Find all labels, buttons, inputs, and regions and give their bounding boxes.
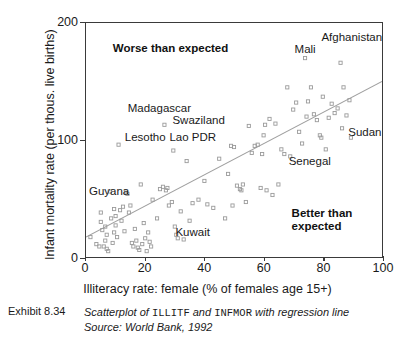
y-tick-label-100: 100 bbox=[18, 134, 78, 147]
scatter-point bbox=[262, 134, 265, 137]
scatter-point bbox=[286, 86, 289, 89]
scatter-point bbox=[280, 148, 283, 151]
scatter-point bbox=[306, 100, 309, 103]
scatter-point bbox=[167, 204, 170, 207]
scatter-point bbox=[226, 172, 229, 175]
figure-exhibit-8-34: Infant mortality rate (per thous. live b… bbox=[0, 0, 415, 343]
scatter-point bbox=[259, 186, 262, 189]
scatter-point bbox=[345, 114, 348, 117]
scatter-point bbox=[340, 127, 343, 130]
country-label-madagascar: Madagascar bbox=[128, 102, 191, 114]
scatter-point bbox=[148, 240, 151, 243]
scatter-point bbox=[145, 250, 148, 253]
scatter-point bbox=[151, 198, 154, 201]
country-label-kuwait: Kuwait bbox=[175, 226, 210, 238]
scatter-point bbox=[292, 108, 295, 111]
y-tick-label-200: 200 bbox=[18, 16, 78, 29]
scatter-point bbox=[111, 241, 114, 244]
scatter-point bbox=[261, 152, 264, 155]
scatter-point bbox=[265, 189, 268, 192]
country-label-mali: Mali bbox=[295, 43, 316, 55]
scatter-point bbox=[191, 202, 194, 205]
scatter-point bbox=[99, 220, 102, 223]
scatter-point bbox=[206, 203, 209, 206]
country-label-guyana: Guyana bbox=[89, 185, 129, 197]
scatter-point bbox=[224, 217, 227, 220]
country-label-swaziland: Swaziland bbox=[172, 114, 224, 126]
caption-mid: and bbox=[190, 306, 214, 318]
scatter-point bbox=[118, 209, 121, 212]
scatter-point bbox=[99, 211, 102, 214]
scatter-point bbox=[312, 113, 315, 116]
scatter-point bbox=[133, 227, 136, 230]
country-label-lao-pdr: Lao PDR bbox=[169, 131, 216, 143]
scatter-point bbox=[244, 200, 247, 203]
caption-line-2: Source: World Bank, 1992 bbox=[84, 320, 349, 334]
scatter-point bbox=[342, 86, 345, 89]
variable-infmor: INFMOR bbox=[214, 307, 252, 319]
scatter-point bbox=[114, 214, 117, 217]
scatter-point bbox=[182, 238, 185, 241]
x-tick-label-60: 60 bbox=[239, 262, 289, 275]
scatter-point bbox=[231, 204, 234, 207]
scatter-point bbox=[155, 217, 158, 220]
scatter-point bbox=[300, 142, 303, 145]
scatter-point bbox=[283, 152, 286, 155]
scatter-point bbox=[324, 148, 327, 151]
scatter-point bbox=[113, 231, 116, 234]
x-tick-label-0: 0 bbox=[60, 262, 110, 275]
country-label-afghanistan: Afghanistan bbox=[321, 31, 382, 43]
scatter-point bbox=[339, 61, 342, 64]
scatter-point bbox=[129, 204, 132, 207]
scatter-point bbox=[121, 205, 124, 208]
caption-pre: Scatterplot of bbox=[84, 306, 152, 318]
scatter-point bbox=[170, 200, 173, 203]
scatter-point bbox=[274, 122, 277, 125]
scatter-point bbox=[218, 157, 221, 160]
scatter-point bbox=[139, 183, 142, 186]
country-label-senegal: Senegal bbox=[289, 155, 331, 167]
scatter-point bbox=[295, 101, 298, 104]
scatter-point bbox=[113, 207, 116, 210]
x-axis-title: Illiteracy rate: female (% of females ag… bbox=[0, 282, 415, 296]
scatter-point bbox=[115, 236, 118, 239]
scatter-point bbox=[114, 224, 117, 227]
scatter-point bbox=[197, 198, 200, 201]
scatter-point bbox=[235, 184, 238, 187]
scatter-point bbox=[212, 206, 215, 209]
scatter-point bbox=[172, 149, 175, 152]
scatter-point bbox=[277, 183, 280, 186]
scatter-point bbox=[142, 221, 145, 224]
scatter-point bbox=[250, 151, 253, 154]
x-tick-label-80: 80 bbox=[298, 262, 348, 275]
scatter-point bbox=[179, 210, 182, 213]
scatter-point bbox=[104, 239, 107, 242]
scatter-point bbox=[315, 119, 318, 122]
scatter-point bbox=[110, 217, 113, 220]
x-tick-mark-100 bbox=[383, 256, 384, 261]
scatter-point bbox=[330, 102, 333, 105]
region-note-worse-than-expected: Worse than expected bbox=[113, 42, 228, 55]
x-tick-label-100: 100 bbox=[358, 262, 408, 275]
scatter-point bbox=[141, 243, 144, 246]
caption-text: Scatterplot of ILLITF and INFMOR with re… bbox=[84, 305, 349, 334]
country-label-lesotho: Lesotho bbox=[125, 131, 166, 143]
scatter-point bbox=[144, 237, 147, 240]
scatter-point bbox=[89, 236, 92, 239]
scatter-point bbox=[132, 245, 135, 248]
scatter-point bbox=[188, 219, 191, 222]
scatter-point bbox=[203, 179, 206, 182]
scatter-point bbox=[305, 115, 308, 118]
scatter-point bbox=[247, 124, 250, 127]
scatter-point bbox=[123, 230, 126, 233]
region-note-better-than-expected: Better than expected bbox=[292, 207, 353, 233]
x-tick-label-40: 40 bbox=[179, 262, 229, 275]
scatter-point bbox=[309, 86, 312, 89]
country-label-sudan: Sudan bbox=[348, 126, 381, 138]
scatter-point bbox=[327, 116, 330, 119]
scatterplot-area: Worse than expectedBetter than expectedA… bbox=[85, 22, 383, 258]
scatter-point bbox=[135, 239, 138, 242]
caption-line-1: Scatterplot of ILLITF and INFMOR with re… bbox=[84, 305, 349, 320]
x-tick-label-20: 20 bbox=[120, 262, 170, 275]
scatter-point bbox=[321, 95, 324, 98]
